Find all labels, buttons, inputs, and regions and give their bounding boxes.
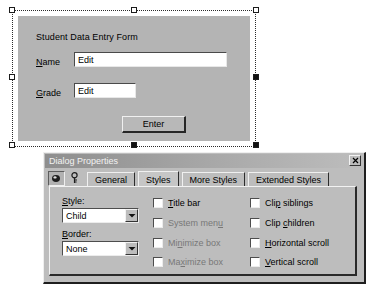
style-combo-label: Style: (62, 196, 85, 206)
close-button[interactable] (349, 155, 361, 166)
checkbox-row-vertical-scroll[interactable]: Vertical scroll (250, 257, 318, 267)
border-combobox-value: None (63, 244, 125, 254)
checkbox-minimize-box-label: Minimize box (168, 238, 221, 248)
enter-button[interactable]: Enter (122, 116, 186, 133)
name-label-rest: ame (43, 57, 61, 67)
properties-title-text: Dialog Properties (45, 156, 118, 166)
resize-handle-middle-right[interactable] (253, 74, 259, 80)
dialog-properties-window[interactable]: Dialog Properties (43, 152, 366, 284)
checkbox-row-clip-children[interactable]: Clip children (250, 218, 315, 228)
grade-label-accel: G (36, 88, 43, 98)
resize-handle-bottom-middle[interactable] (131, 142, 137, 148)
checkbox-maximize-box-label: Maximize box (168, 257, 223, 267)
tab-extended-styles-label: Extended Styles (256, 175, 321, 185)
checkbox-system-menu[interactable] (153, 218, 163, 228)
resize-handle-bottom-right[interactable] (253, 142, 259, 148)
grade-label-rest: rade (43, 88, 61, 98)
checkbox-row-title-bar[interactable]: Title bar (153, 198, 200, 208)
tab-more-styles[interactable]: More Styles (182, 172, 246, 186)
checkbox-row-clip-siblings[interactable]: Clip siblings (250, 198, 313, 208)
checkbox-clip-children-label: Clip children (265, 218, 315, 228)
checkbox-system-menu-label: System menu (168, 218, 223, 228)
properties-tabstrip[interactable]: General Styles More Styles Extended Styl… (48, 170, 360, 186)
style-combobox-value: Child (63, 211, 125, 221)
close-icon (352, 157, 359, 164)
tab-styles[interactable]: Styles (138, 171, 179, 187)
chevron-down-icon (128, 213, 136, 218)
checkbox-horizontal-scroll[interactable] (250, 238, 260, 248)
resize-handle-bottom-left[interactable] (9, 142, 15, 148)
checkbox-row-maximize-box[interactable]: Maximize box (153, 257, 223, 267)
properties-titlebar[interactable]: Dialog Properties (45, 154, 363, 168)
checkbox-clip-siblings-label: Clip siblings (265, 198, 313, 208)
checkbox-clip-children[interactable] (250, 218, 260, 228)
grade-field-label[interactable]: Grade (36, 88, 61, 98)
pushpin-toggle-button[interactable] (48, 171, 65, 186)
grade-edit-control[interactable]: Edit (74, 83, 136, 98)
tab-general-label: General (95, 175, 127, 185)
tab-general[interactable]: General (87, 172, 135, 186)
key-icon (69, 170, 80, 188)
dialog-form-surface[interactable]: Student Data Entry Form Name Edit Grade … (18, 16, 250, 141)
form-designer-canvas[interactable]: Student Data Entry Form Name Edit Grade … (18, 16, 250, 141)
checkbox-row-system-menu[interactable]: System menu (153, 218, 223, 228)
checkbox-horizontal-scroll-label: Horizontal scroll (265, 238, 329, 248)
key-tool-button[interactable] (66, 171, 83, 186)
resize-handle-top-middle[interactable] (131, 7, 137, 13)
resize-handle-middle-left[interactable] (9, 74, 15, 80)
name-edit-control[interactable]: Edit (74, 52, 227, 67)
checkbox-title-bar-label: Title bar (168, 198, 200, 208)
form-static-title[interactable]: Student Data Entry Form (36, 32, 138, 42)
border-combo-label: Border: (62, 229, 92, 239)
pushpin-icon (51, 170, 62, 188)
chevron-down-icon (128, 246, 136, 251)
name-field-label[interactable]: Name (36, 57, 60, 67)
resize-handle-top-left[interactable] (9, 7, 15, 13)
checkbox-row-horizontal-scroll[interactable]: Horizontal scroll (250, 238, 329, 248)
checkbox-maximize-box[interactable] (153, 257, 163, 267)
checkbox-vertical-scroll[interactable] (250, 257, 260, 267)
checkbox-vertical-scroll-label: Vertical scroll (265, 257, 318, 267)
tab-styles-label: Styles (146, 175, 171, 185)
style-label-rest: tyle: (68, 196, 85, 206)
border-label-rest: order: (68, 229, 92, 239)
style-combobox-dropdown-button[interactable] (125, 209, 138, 222)
resize-handle-top-right[interactable] (253, 7, 259, 13)
border-combobox-dropdown-button[interactable] (125, 242, 138, 255)
checkbox-row-minimize-box[interactable]: Minimize box (153, 238, 221, 248)
tab-more-styles-label: More Styles (190, 175, 238, 185)
checkbox-title-bar[interactable] (153, 198, 163, 208)
checkbox-minimize-box[interactable] (153, 238, 163, 248)
style-combobox[interactable]: Child (62, 208, 139, 223)
styles-tab-panel: Style: Child Border: None Title (49, 186, 357, 276)
checkbox-clip-siblings[interactable] (250, 198, 260, 208)
border-combobox[interactable]: None (62, 241, 139, 256)
tab-extended-styles[interactable]: Extended Styles (248, 172, 329, 186)
